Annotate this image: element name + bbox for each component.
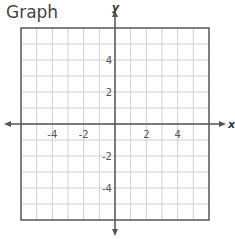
coordinate-grid[interactable]: xy-4-22442-2-4 bbox=[0, 0, 235, 239]
y-tick-label: 2 bbox=[106, 87, 112, 98]
x-tick-label: -4 bbox=[47, 129, 57, 140]
x-tick-label: -2 bbox=[79, 129, 89, 140]
arrow-left-icon bbox=[4, 121, 11, 127]
x-tick-label: 2 bbox=[143, 129, 149, 140]
arrow-down-icon bbox=[112, 229, 118, 236]
y-tick-label: -2 bbox=[102, 151, 112, 162]
y-tick-label: -4 bbox=[102, 183, 112, 194]
y-axis-label: y bbox=[112, 1, 120, 14]
arrow-right-icon bbox=[219, 121, 226, 127]
y-tick-label: 4 bbox=[106, 55, 112, 66]
x-tick-label: 4 bbox=[174, 129, 180, 140]
x-axis-label: x bbox=[227, 118, 235, 131]
